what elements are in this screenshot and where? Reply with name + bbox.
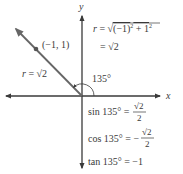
- tan-formula: tan 135° = −1: [88, 156, 143, 167]
- sin-formula: sin 135° =: [88, 106, 130, 117]
- r-formula-line1: r = √(−1)2 + 12: [93, 23, 152, 35]
- unit-angle-diagram: y x (−1, 1) r = √2 135° r = √(−1)2 + 12 …: [0, 0, 183, 174]
- y-axis-label: y: [78, 1, 84, 12]
- angle-label: 135°: [92, 73, 111, 84]
- x-axis-label: x: [165, 90, 171, 101]
- point-marker: [34, 47, 39, 52]
- cos-denominator: 2: [145, 139, 150, 149]
- sin-denominator: 2: [137, 113, 142, 123]
- cos-formula: cos 135° = −: [88, 133, 139, 144]
- sin-numerator: √2: [134, 101, 143, 111]
- point-label: (−1, 1): [42, 39, 69, 51]
- cos-numerator: √2: [142, 127, 151, 137]
- r-formula-line2: = √2: [100, 41, 119, 52]
- r-label: r = √2: [22, 68, 47, 79]
